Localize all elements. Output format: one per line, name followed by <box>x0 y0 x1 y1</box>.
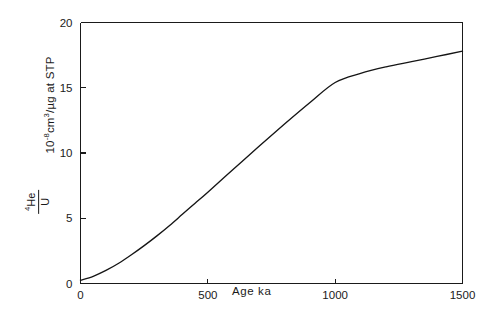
y-tick-label: 20 <box>60 17 73 29</box>
axis-frame-top-right <box>81 23 463 284</box>
x-tick-label: 500 <box>198 289 217 301</box>
y-units-mantissa: 10 <box>44 140 56 153</box>
y-units-cm-exponent: 3 <box>42 113 51 117</box>
x-tick-label: 1000 <box>322 289 348 301</box>
x-axis-title: Age ka <box>232 285 271 297</box>
y-units-exponent: -8 <box>42 133 51 140</box>
y-tick-label: 5 <box>66 212 72 224</box>
x-tick-label: 1500 <box>450 289 476 301</box>
axes <box>81 23 463 284</box>
fraction-denominator: U <box>39 190 52 214</box>
x-tick-label: 0 <box>77 289 83 301</box>
tick-labels: 05101520050010001500 <box>60 17 476 301</box>
y-axis-fraction-label: 4He U <box>24 173 52 231</box>
fraction: 4He U <box>24 190 52 214</box>
chart-figure: 05101520050010001500 Age ka 10-8cm3/µg a… <box>0 0 498 314</box>
isotope-symbol: He <box>25 193 37 207</box>
axis-spines <box>81 23 463 284</box>
y-tick-label: 0 <box>66 278 72 290</box>
isotope-superscript: 4 <box>23 207 32 211</box>
y-axis-units-label: 10-8cm3/µg at STP <box>42 25 56 185</box>
y-tick-label: 10 <box>60 147 73 159</box>
fraction-numerator: 4He <box>24 190 39 214</box>
y-units-cm: cm <box>44 117 56 133</box>
y-tick-label: 15 <box>60 82 73 94</box>
y-units-text: 10-8cm3/µg at STP <box>44 56 56 153</box>
series-curve <box>81 51 463 280</box>
data-series <box>81 51 463 280</box>
tick-marks <box>81 23 463 284</box>
y-units-tail: /µg at STP <box>44 56 56 113</box>
plot-area: 05101520050010001500 <box>0 0 498 314</box>
